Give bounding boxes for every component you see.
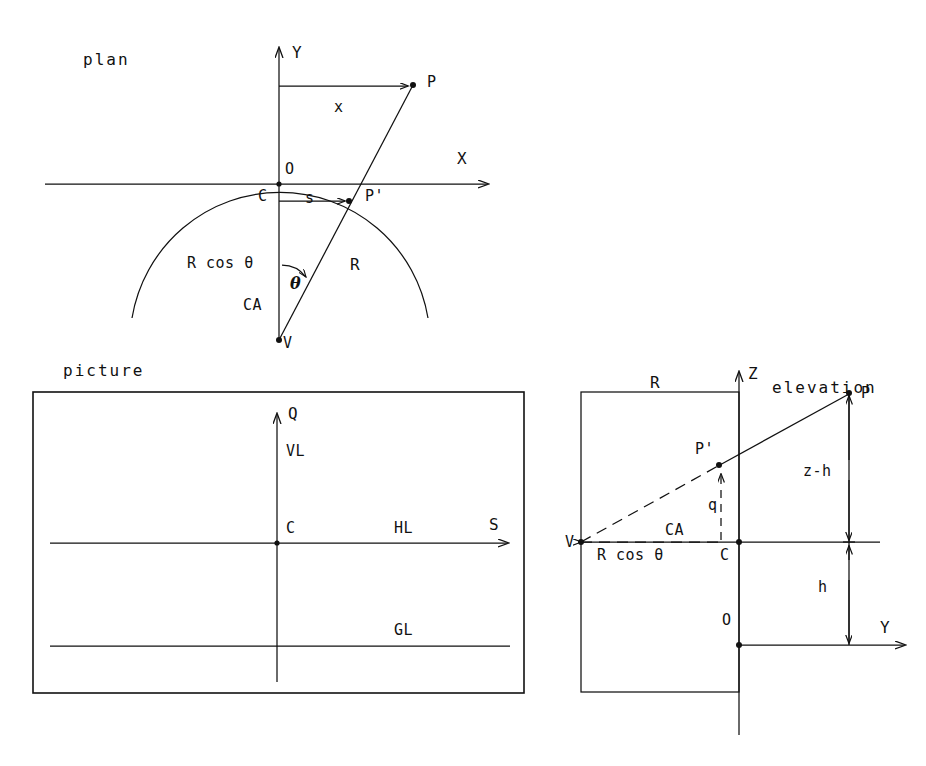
plan-point-label-Pprime: P' <box>365 189 384 204</box>
picture-view-lines <box>50 414 510 682</box>
elevation-point-O <box>736 642 742 648</box>
plan-measure-label-s: s <box>305 191 315 206</box>
plan-point-P <box>410 82 416 88</box>
elevation-point-V <box>578 539 584 545</box>
elevation-point-label-Pprime: P' <box>695 442 714 457</box>
plan-measure-label-R: R <box>350 257 360 273</box>
plan-point-O <box>276 181 281 186</box>
picture-view-dots <box>274 540 279 545</box>
picture-title: picture <box>63 363 144 379</box>
plan-point-Pprime <box>346 198 352 204</box>
plan-point-label-V: V <box>283 336 293 351</box>
picture-axis-label-S: S <box>489 517 499 533</box>
plan-measure-label-CA: CA <box>243 298 262 313</box>
picture-line-label-HL: HL <box>394 521 413 536</box>
elevation-measure-label-rcostheta: R cos θ <box>597 548 664 563</box>
picture-axis-label-Q: Q <box>288 406 298 422</box>
elevation-point-Pprime <box>716 462 722 468</box>
elevation-measure-label-CA: CA <box>665 523 684 538</box>
plan-axis-label-x: X <box>457 151 467 167</box>
figure-canvas: plan Y X P P' O C V x s R cos θ R θ CA p… <box>0 0 926 766</box>
plan-measure-label-rcostheta: R cos θ <box>187 256 254 271</box>
plan-point-label-P: P <box>427 75 437 90</box>
elevation-point-C <box>736 539 742 545</box>
picture-point-label-C: C <box>286 521 296 536</box>
plan-point-label-O: O <box>285 162 295 177</box>
elevation-sight-ray-solid <box>718 394 849 466</box>
elevation-measure-label-zh: z-h <box>803 464 832 479</box>
picture-line-label-VL: VL <box>286 444 305 459</box>
elevation-axis-label-Z: Z <box>748 366 758 382</box>
elevation-point-label-V: V <box>565 535 575 550</box>
picture-point-C <box>274 540 279 545</box>
elevation-sight-ray-dashed <box>581 466 718 542</box>
plan-point-label-C: C <box>258 189 268 204</box>
plan-measure-label-x: x <box>334 100 344 115</box>
elevation-axis-label-Y: Y <box>880 620 890 636</box>
elevation-measure-label-R: R <box>650 375 660 391</box>
elevation-view-dots <box>578 390 852 648</box>
plan-measure-label-theta: θ <box>290 276 301 292</box>
elevation-point-label-O: O <box>722 613 732 628</box>
plan-axis-label-y: Y <box>292 45 302 61</box>
plan-title: plan <box>83 52 130 68</box>
elevation-measure-label-q: q <box>708 498 718 513</box>
picture-line-label-GL: GL <box>394 623 413 638</box>
plan-radius-arc <box>132 192 428 318</box>
plan-sight-ray <box>279 85 413 340</box>
elevation-measure-label-h: h <box>818 580 828 595</box>
elevation-point-label-P: P <box>861 386 871 401</box>
elevation-point-label-C: C <box>720 548 730 563</box>
plan-point-V <box>276 337 282 343</box>
